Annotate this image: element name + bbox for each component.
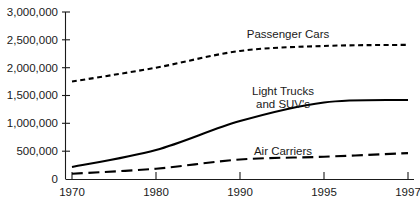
y-axis-tick-label-3000000: 3,000,000: [7, 6, 58, 18]
series-label-light-trucks-line1: Light Trucks: [252, 85, 314, 97]
series-label-air-carriers: Air Carriers: [254, 145, 312, 157]
y-axis-tick-label-2000000: 2,000,000: [7, 62, 58, 74]
x-axis-tick-label-1990: 1990: [227, 186, 253, 198]
chart-canvas: 3,000,000 2,500,000 2,000,000 1,500,000 …: [0, 0, 420, 205]
x-axis-tick-label-1997: 1997: [395, 186, 420, 198]
y-axis-tick-label-1000000: 1,000,000: [7, 117, 58, 129]
y-axis-tick-label-1500000: 1,500,000: [7, 89, 58, 101]
line-chart: 3,000,000 2,500,000 2,000,000 1,500,000 …: [0, 0, 420, 205]
y-axis-tick-label-0: 0: [52, 173, 58, 185]
y-axis-tick-label-2500000: 2,500,000: [7, 34, 58, 46]
series-line-light-trucks-and-suvs: [72, 100, 408, 167]
series-line-passenger-cars: [72, 45, 408, 82]
y-axis-tick-label-500000: 500,000: [16, 145, 58, 157]
series-label-passenger-cars: Passenger Cars: [247, 28, 330, 40]
series-line-air-carriers: [72, 153, 408, 174]
x-axis-tick-label-1980: 1980: [143, 186, 169, 198]
x-axis-tick-label-1995: 1995: [311, 186, 337, 198]
series-label-light-trucks-line2: and SUV's: [256, 98, 310, 110]
x-axis-tick-label-1970: 1970: [59, 186, 85, 198]
